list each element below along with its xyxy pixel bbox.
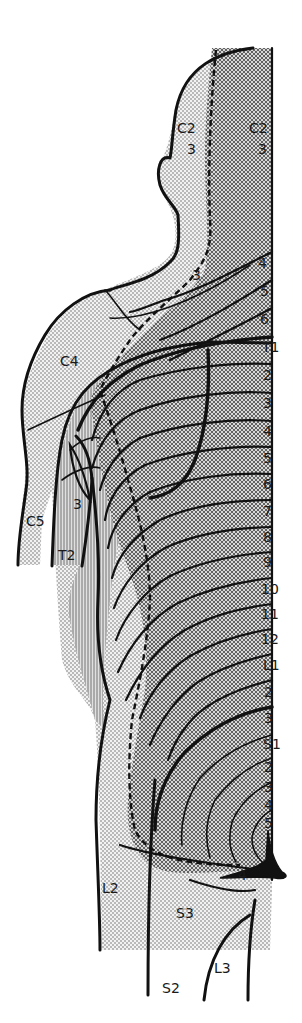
label-thigh-l3: L3 [214,960,231,976]
spine-label: L1 [263,657,280,673]
label-buttock-4: 4 [238,867,247,883]
label-arm-c5: C5 [26,513,45,529]
spine-label: 9 [263,554,272,570]
label-head-right-3: 3 [258,141,267,157]
label-arm-3: 3 [73,496,82,512]
spine-label: 3 [264,710,273,726]
spine-label: 10 [261,581,279,597]
spine-label: 3 [263,395,272,411]
spine-label: 6 [260,311,269,327]
spine-label: 4 [264,797,273,813]
label-shoulder-c4: C4 [60,353,79,369]
label-neck-3: 3 [192,267,201,283]
spine-label: 7 [263,503,272,519]
spine-label: 6 [263,476,272,492]
label-head-left-c2: C2 [177,120,196,136]
label-thigh-l2: L2 [102,880,119,896]
dermatome-diagram: C2 3 C2 3 3 C4 C5 T2 3 L2 S3 S2 L3 4 4 5… [0,0,302,1023]
spine-label: 2 [263,367,272,383]
label-head-right-c2: C2 [249,120,268,136]
spine-label: 8 [263,529,272,545]
spine-label: 5 [264,815,273,831]
label-thigh-s3: S3 [176,905,194,921]
label-head-left-3: 3 [187,141,196,157]
label-arm-t2: T2 [57,547,75,563]
spine-label: 4 [258,255,267,271]
spine-label: 5 [263,450,272,466]
spine-label: 11 [261,606,279,622]
spine-label: 4 [263,423,272,439]
spine-label: 3 [264,779,273,795]
spine-label: 5 [260,283,269,299]
spine-label: T1 [261,339,279,355]
spine-label: 12 [261,631,279,647]
spine-label: S1 [263,736,281,752]
spine-label: 2 [264,759,273,775]
spine-label: 2 [264,684,273,700]
label-thigh-s2: S2 [162,980,180,996]
